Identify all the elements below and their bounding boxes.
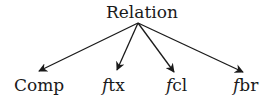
child-node-label: Comp <box>14 75 64 95</box>
edge-relation-to-fbr <box>138 23 243 72</box>
child-node-label: cl <box>172 75 187 95</box>
child-node-label: tx <box>108 75 124 95</box>
child-node-fbr: fbr <box>233 77 258 94</box>
relation-tree-diagram: Relation Comp ftx fcl fbr <box>0 0 273 99</box>
edge-relation-to-fcl <box>138 23 174 72</box>
edge-relation-to-comp <box>39 23 138 71</box>
child-node-ftx: ftx <box>102 77 125 94</box>
child-node-comp: Comp <box>14 77 64 94</box>
root-node-label: Relation <box>106 2 178 22</box>
child-node-label: br <box>239 75 258 95</box>
root-node-relation: Relation <box>106 4 178 21</box>
child-node-fcl: fcl <box>166 77 187 94</box>
edge-relation-to-ftx <box>117 23 138 70</box>
